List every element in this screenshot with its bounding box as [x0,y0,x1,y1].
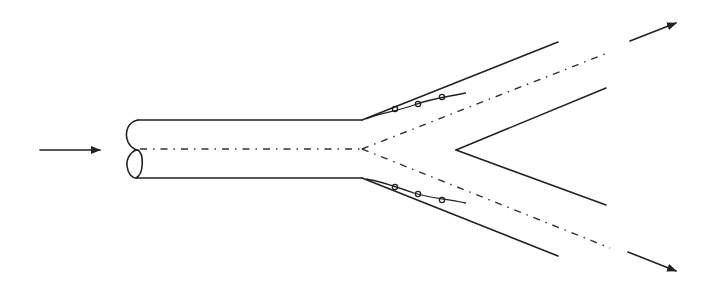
pipe-break-symbol-icon [126,120,142,178]
upper-centerline [362,52,610,149]
pipe-bifurcation-diagram [0,0,706,284]
lower-branch [362,150,606,256]
lower-centerline [362,149,610,248]
centerlines [140,52,610,248]
upper-outlet-arrow-icon [630,23,676,41]
upper-branch-inner-wall [456,88,606,150]
lower-weld-bead-icon [439,197,444,202]
upper-branch [362,42,606,150]
lower-branch-outer-wall [362,178,558,256]
lower-outlet-arrow-icon [628,252,676,271]
upper-branch-outer-wall [362,42,558,120]
lower-branch-inner-wall [456,150,606,205]
